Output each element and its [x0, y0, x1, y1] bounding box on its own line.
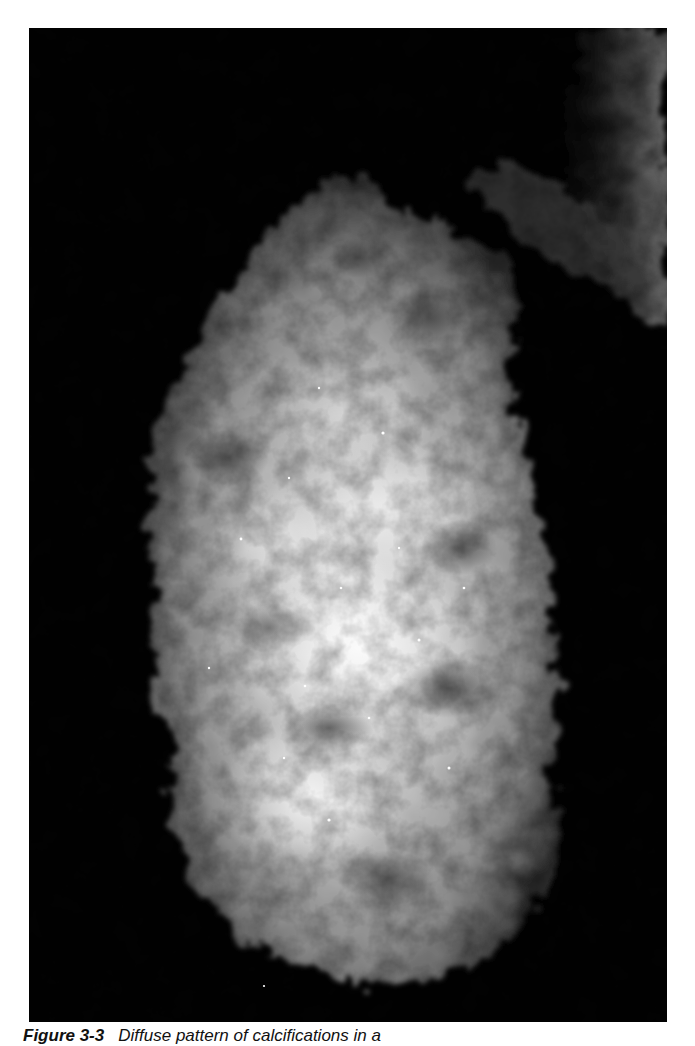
mammogram-image	[29, 28, 667, 1022]
mammogram-graphic	[29, 28, 667, 1022]
figure-caption-text: Diffuse pattern of calcifications in a	[118, 1026, 381, 1045]
figure-label: Figure 3-3	[23, 1026, 104, 1045]
figure-caption: Figure 3-3Diffuse pattern of calcificati…	[23, 1026, 683, 1046]
texture-grain	[29, 28, 667, 1022]
